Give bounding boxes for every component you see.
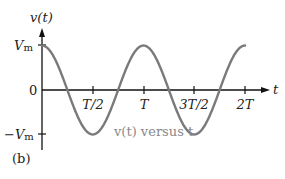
y-axis-label: v(t) (30, 10, 53, 25)
y-tick-label-min: −Vm (4, 127, 34, 142)
cosine-waveform-figure: v(t) t Vm 0 −Vm T/2 T 3T/2 2T v(t) versu… (0, 0, 285, 179)
x-tick-label-2T: 2T (236, 97, 255, 112)
x-tick-label-3half-T: 3T/2 (179, 97, 209, 112)
y-tick-label-max: Vm (14, 38, 33, 53)
y-tick-label-zero: 0 (29, 83, 37, 98)
x-tick-label-T: T (140, 97, 150, 112)
x-axis-arrow-icon (261, 87, 270, 93)
panel-label: (b) (12, 151, 30, 166)
y-axis-arrow-icon (39, 28, 45, 37)
x-tick-label-half-T: T/2 (82, 97, 103, 112)
x-axis-label: t (273, 82, 279, 97)
curve-caption: v(t) versus t (113, 124, 194, 139)
